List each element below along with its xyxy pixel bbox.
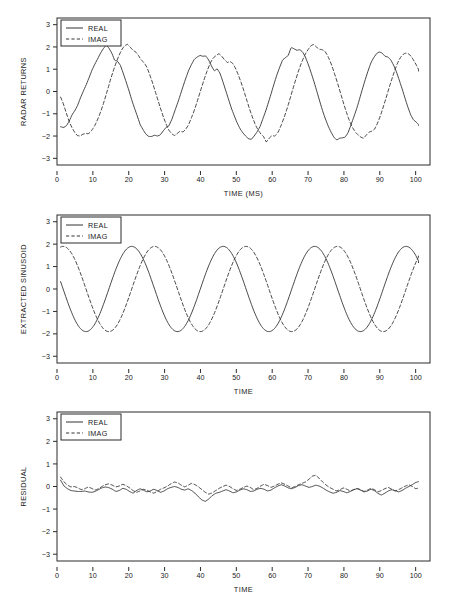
x-tick-label: 80 xyxy=(340,373,348,382)
chart-0: −3−2−101230102030405060708090100TIME (MS… xyxy=(0,0,449,200)
x-tick-label: 10 xyxy=(89,373,97,382)
y-axis-title: EXTRACTED SINUSOID xyxy=(19,244,28,334)
y-axis-title: RADAR RETURNS xyxy=(19,57,28,126)
y-tick-label: 3 xyxy=(46,217,50,226)
y-tick-label: 2 xyxy=(46,240,50,249)
legend-label-imag: IMAG xyxy=(88,232,108,241)
y-tick-label: 0 xyxy=(46,285,50,294)
x-tick-label: 30 xyxy=(161,373,169,382)
y-tick-label: 2 xyxy=(46,43,50,52)
y-tick-label: 3 xyxy=(46,414,50,423)
x-axis-title: TIME (MS) xyxy=(224,189,263,198)
x-tick-label: 100 xyxy=(410,571,422,580)
y-tick-label: −1 xyxy=(42,505,50,514)
x-tick-label: 70 xyxy=(304,571,312,580)
x-tick-label: 90 xyxy=(376,373,384,382)
series-imag xyxy=(61,246,419,331)
y-tick-label: 2 xyxy=(46,437,50,446)
x-tick-label: 30 xyxy=(161,571,169,580)
x-tick-label: 20 xyxy=(125,373,133,382)
legend-label-real: REAL xyxy=(88,221,108,230)
panel-extracted-sinusoid: −3−2−101230102030405060708090100TIMEEXTR… xyxy=(0,199,449,399)
x-tick-label: 100 xyxy=(410,373,422,382)
x-tick-label: 80 xyxy=(340,571,348,580)
y-tick-label: 0 xyxy=(46,482,50,491)
y-tick-label: −3 xyxy=(42,352,50,361)
series-real xyxy=(61,246,419,331)
x-tick-label: 50 xyxy=(232,571,240,580)
x-tick-label: 50 xyxy=(232,373,240,382)
y-tick-label: −2 xyxy=(42,527,50,536)
x-tick-label: 0 xyxy=(55,373,59,382)
x-tick-label: 50 xyxy=(232,175,240,184)
x-tick-label: 0 xyxy=(55,571,59,580)
x-tick-label: 0 xyxy=(55,175,59,184)
series-real xyxy=(61,45,419,139)
chart-2: −3−2−101230102030405060708090100TIMERESI… xyxy=(0,398,449,599)
panel-residual: −3−2−101230102030405060708090100TIMERESI… xyxy=(0,398,449,599)
x-tick-label: 80 xyxy=(340,175,348,184)
legend: REALIMAG xyxy=(61,414,121,440)
series-imag xyxy=(61,475,419,494)
x-tick-label: 60 xyxy=(268,175,276,184)
x-tick-label: 70 xyxy=(304,373,312,382)
x-tick-label: 40 xyxy=(196,175,204,184)
legend-label-real: REAL xyxy=(88,24,108,33)
y-tick-label: 1 xyxy=(46,262,50,271)
x-tick-label: 40 xyxy=(196,571,204,580)
x-axis-title: TIME xyxy=(234,585,253,594)
legend-label-imag: IMAG xyxy=(88,35,108,44)
y-tick-label: 3 xyxy=(46,20,50,29)
legend-label-imag: IMAG xyxy=(88,429,108,438)
legend-label-real: REAL xyxy=(88,418,108,427)
x-axis-title: TIME xyxy=(234,387,253,396)
y-tick-label: 0 xyxy=(46,87,50,96)
x-tick-label: 60 xyxy=(268,571,276,580)
y-tick-label: −1 xyxy=(42,109,50,118)
x-tick-label: 10 xyxy=(89,175,97,184)
y-tick-label: −2 xyxy=(42,132,50,141)
x-tick-label: 90 xyxy=(376,571,384,580)
y-tick-label: −3 xyxy=(42,154,50,163)
legend: REALIMAG xyxy=(61,217,121,243)
y-tick-label: 1 xyxy=(46,460,50,469)
x-tick-label: 20 xyxy=(125,175,133,184)
x-tick-label: 70 xyxy=(304,175,312,184)
y-tick-label: 1 xyxy=(46,65,50,74)
x-tick-label: 10 xyxy=(89,571,97,580)
x-tick-label: 90 xyxy=(376,175,384,184)
y-axis-title: RESIDUAL xyxy=(19,466,28,506)
y-tick-label: −1 xyxy=(42,307,50,316)
x-tick-label: 30 xyxy=(161,175,169,184)
x-tick-label: 100 xyxy=(410,175,422,184)
chart-1: −3−2−101230102030405060708090100TIMEEXTR… xyxy=(0,199,449,399)
x-tick-label: 60 xyxy=(268,373,276,382)
y-tick-label: −3 xyxy=(42,550,50,559)
x-tick-label: 20 xyxy=(125,571,133,580)
y-tick-label: −2 xyxy=(42,329,50,338)
panel-radar-returns: −3−2−101230102030405060708090100TIME (MS… xyxy=(0,0,449,200)
legend: REALIMAG xyxy=(61,20,121,46)
x-tick-label: 40 xyxy=(196,373,204,382)
